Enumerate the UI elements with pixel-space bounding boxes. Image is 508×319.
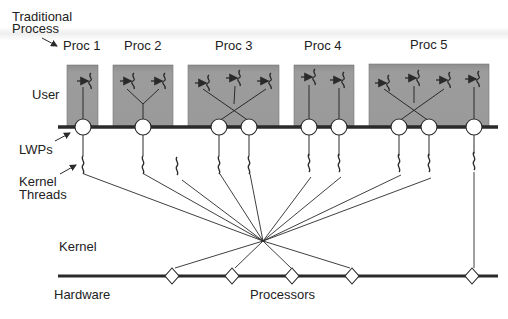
processor-icon xyxy=(345,268,359,284)
processor-icon xyxy=(465,268,479,284)
proc-2-label: Proc 2 xyxy=(124,39,162,52)
proc-3-label: Proc 3 xyxy=(215,39,253,52)
processors-label: Processors xyxy=(250,288,315,301)
kernel-thread-icon xyxy=(338,154,340,172)
processor-icon xyxy=(285,268,299,284)
kernel-thread-icon xyxy=(248,156,250,174)
lwp-circle-icon xyxy=(211,119,227,135)
kernel-threads-label-line2: Threads xyxy=(19,188,67,201)
kernel-thread-icon xyxy=(398,154,400,172)
lwp-circle-icon xyxy=(331,119,347,135)
lwps-label: LWPs xyxy=(19,143,53,156)
kernel-thread-icon xyxy=(142,156,144,174)
lwp-links xyxy=(83,135,474,156)
lwp-circle-icon xyxy=(391,119,407,135)
kernel-thread-icon xyxy=(473,152,475,170)
user-layer-label: User xyxy=(32,88,59,101)
kernel-thread-icon xyxy=(82,156,84,174)
proc-4-label: Proc 4 xyxy=(304,39,342,52)
process-box-4 xyxy=(294,65,354,126)
traditional-process-label-line2: Process xyxy=(12,22,59,35)
processor-icon xyxy=(165,268,179,284)
hardware-layer-label: Hardware xyxy=(54,288,110,301)
lwp-circle-icon xyxy=(301,119,317,135)
kernel-threads xyxy=(82,152,475,175)
lwp-circle-icon xyxy=(421,119,437,135)
process-box-5 xyxy=(369,64,489,126)
proc-5-label: Proc 5 xyxy=(410,38,448,51)
lwp-circle-icon xyxy=(135,119,151,135)
lwp-circle-icon xyxy=(75,119,91,135)
kernel-thread-icon xyxy=(428,154,430,172)
process-box-3 xyxy=(188,65,279,126)
scheduler-links xyxy=(84,172,474,268)
proc-1-label: Proc 1 xyxy=(63,39,101,52)
kernel-layer-label: Kernel xyxy=(59,240,97,253)
kernel-thread-icon xyxy=(218,156,220,174)
lwp-circle-icon xyxy=(241,119,257,135)
lwp-circle-icon xyxy=(466,119,482,135)
kernel-thread-icon xyxy=(176,157,178,175)
processor-icon xyxy=(225,268,239,284)
kernel-thread-icon xyxy=(308,154,310,172)
